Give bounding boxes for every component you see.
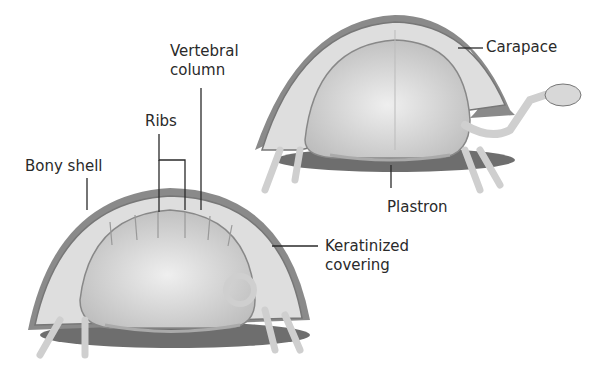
label-keratinized-covering: Keratinized covering	[325, 237, 409, 275]
turtle-front-illustration	[28, 188, 310, 355]
label-vertebral-column: Vertebral column	[170, 42, 239, 80]
label-keratinized-line1: Keratinized	[325, 237, 409, 256]
label-bony-shell: Bony shell	[25, 157, 103, 176]
label-ribs: Ribs	[145, 112, 177, 131]
label-plastron: Plastron	[387, 198, 448, 217]
label-vertebral-column-line2: column	[170, 61, 239, 80]
label-vertebral-column-line1: Vertebral	[170, 42, 239, 61]
label-keratinized-line2: covering	[325, 256, 409, 275]
label-carapace: Carapace	[486, 38, 557, 57]
